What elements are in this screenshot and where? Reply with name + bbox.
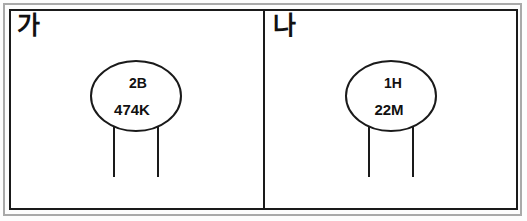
- symbol-left-ellipse: [91, 61, 181, 131]
- symbol-left: 2B 474K: [86, 43, 186, 203]
- symbol-right-ellipse: [346, 61, 436, 131]
- panel-label-ga: 가: [17, 13, 40, 38]
- ellipse-symbol-right-graphic: 1H 22M: [341, 43, 441, 203]
- symbol-right-text-top: 1H: [384, 75, 402, 91]
- panel-left: 가 2B 474K: [9, 9, 263, 210]
- symbol-right: 1H 22M: [341, 43, 441, 203]
- symbol-left-text-bottom: 474K: [114, 101, 150, 118]
- symbol-right-text-bottom: 22M: [374, 101, 403, 118]
- ellipse-symbol-left-graphic: 2B 474K: [86, 43, 186, 203]
- panel-label-na: 나: [273, 13, 296, 38]
- figure-container: 가 2B 474K 나 1H: [0, 0, 527, 221]
- panel-right: 나 1H 22M: [265, 9, 518, 210]
- symbol-left-text-top: 2B: [129, 75, 147, 91]
